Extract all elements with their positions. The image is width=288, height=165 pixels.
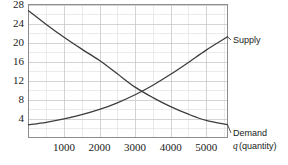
x-axis-label-text: (quantity) — [239, 141, 277, 151]
major-horizontal-gridlines — [29, 6, 228, 120]
x-tick-label: 1000 — [53, 141, 76, 153]
x-axis-label-variable: q — [233, 141, 238, 151]
x-tick-label: 3000 — [124, 141, 147, 153]
x-tick-label: 4000 — [160, 141, 183, 153]
supply-demand-chart: 481216202428 10002000300040005000 Supply… — [0, 0, 288, 165]
y-tick-label: 28 — [13, 0, 25, 10]
y-tick-label: 20 — [13, 36, 25, 48]
demand-series-label: Demand — [233, 128, 267, 138]
y-tick-label: 24 — [13, 17, 25, 29]
curve-supply — [29, 37, 228, 125]
y-tick-label: 12 — [13, 74, 24, 86]
x-axis-tick-labels: 10002000300040005000 — [53, 141, 218, 153]
supply-series-label: Supply — [233, 35, 261, 45]
curve-demand — [29, 11, 228, 125]
supply-leader-line — [228, 37, 232, 40]
y-tick-label: 16 — [13, 55, 25, 67]
x-tick-label: 5000 — [195, 141, 218, 153]
demand-leader-line — [228, 125, 232, 133]
y-axis-tick-labels: 481216202428 — [13, 0, 25, 124]
y-tick-label: 8 — [19, 93, 25, 105]
chart-page: 481216202428 10002000300040005000 Supply… — [0, 0, 288, 165]
y-tick-label: 4 — [19, 112, 25, 124]
minor-horizontal-gridlines — [29, 15, 228, 129]
curve-group — [29, 11, 232, 133]
x-tick-label: 2000 — [89, 141, 112, 153]
